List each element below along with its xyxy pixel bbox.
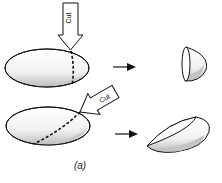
cut-arrow-top: Cut — [58, 3, 83, 50]
bottom-ellipse — [6, 107, 90, 146]
arrow-right-bottom — [115, 130, 138, 138]
arrow-right-top — [113, 63, 136, 71]
cut-label-top: Cut — [65, 13, 72, 24]
bottom-result-half — [147, 117, 209, 152]
figure-caption: (a) — [60, 160, 100, 171]
top-ellipse — [5, 49, 89, 87]
top-result-half — [182, 47, 207, 81]
cutting-diagram: Cut Cut — [0, 0, 222, 183]
